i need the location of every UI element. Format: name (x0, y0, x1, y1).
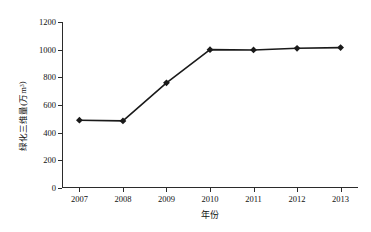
y-axis-tick-label: 1000 (39, 45, 56, 55)
x-axis-tick-mark (210, 188, 211, 192)
x-axis-tick-label: 2007 (71, 194, 88, 204)
y-axis-title: 绿化三维量(万m3) (14, 0, 30, 232)
data-point-marker (76, 117, 83, 124)
x-axis-tick-mark (341, 188, 342, 192)
x-axis-tick-mark (297, 188, 298, 192)
y-axis-tick-label: 800 (43, 72, 56, 82)
data-series-layer (62, 22, 358, 188)
x-axis-tick-mark (79, 188, 80, 192)
series-markers (76, 44, 344, 124)
y-axis-title-text: 绿化三维量(万m (16, 87, 28, 150)
y-axis-tick-label: 400 (43, 128, 56, 138)
x-axis-tick-mark (123, 188, 124, 192)
y-axis-title-paren: ) (17, 81, 27, 84)
y-axis-tick-label: 200 (43, 155, 56, 165)
x-axis-tick-mark (254, 188, 255, 192)
data-point-marker (294, 45, 301, 52)
x-axis-tick-label: 2013 (332, 194, 349, 204)
data-point-marker (250, 47, 257, 54)
x-axis-tick-label: 2009 (158, 194, 175, 204)
y-axis-tick-label: 0 (52, 183, 56, 193)
y-axis-title-superscript: 3 (19, 84, 25, 87)
y-axis-tick-label: 600 (43, 100, 56, 110)
x-axis-tick-label: 2012 (289, 194, 306, 204)
x-axis-tick-label: 2010 (202, 194, 219, 204)
series-line (79, 48, 340, 121)
y-axis-tick-label: 1200 (39, 17, 56, 27)
x-axis-tick-label: 2008 (114, 194, 131, 204)
chart-figure: 绿化三维量(万m3) 020040060080010001200 2007200… (0, 0, 371, 232)
data-point-marker (337, 44, 344, 51)
y-axis-tick-mark (58, 188, 62, 189)
x-axis-tick-label: 2011 (245, 194, 262, 204)
x-axis-tick-mark (166, 188, 167, 192)
plot-area: 020040060080010001200 200720082009201020… (62, 22, 358, 188)
x-axis-title: 年份 (60, 208, 360, 221)
